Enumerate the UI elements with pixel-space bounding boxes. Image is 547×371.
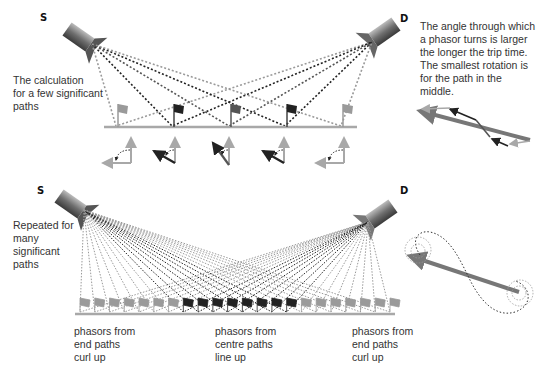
side-note: The angle through which a phasor turns i…: [420, 20, 535, 98]
phasor-sum-top: [420, 108, 530, 146]
top-paths: [92, 42, 372, 126]
label-end-right: phasors from end paths curl up: [352, 325, 413, 364]
phasor-icon: [103, 138, 131, 163]
phasor-rotations-top: [103, 138, 344, 165]
label-end-left: phasors from end paths curl up: [74, 325, 135, 364]
flags-bottom: [80, 298, 400, 312]
phasor-icon: [263, 138, 284, 163]
detector-bottom: [353, 193, 402, 241]
top-caption: The calculation for a few significant pa…: [13, 74, 103, 113]
phasor-icon: [213, 138, 229, 165]
label-centre: phasors from centre paths line up: [215, 325, 276, 364]
detector-label-bottom: D: [400, 185, 408, 196]
phasor-spiral: [405, 232, 533, 313]
bottom-caption: Repeated for many significant paths: [13, 219, 74, 271]
detector-label-top: D: [400, 13, 408, 24]
bottom-paths: [80, 210, 390, 312]
source-label-bottom: S: [37, 185, 44, 196]
source-label-top: S: [40, 12, 47, 23]
phasor-icon: [154, 138, 175, 163]
source-emitter-top: [58, 16, 107, 64]
phasor-icon: [316, 138, 344, 163]
